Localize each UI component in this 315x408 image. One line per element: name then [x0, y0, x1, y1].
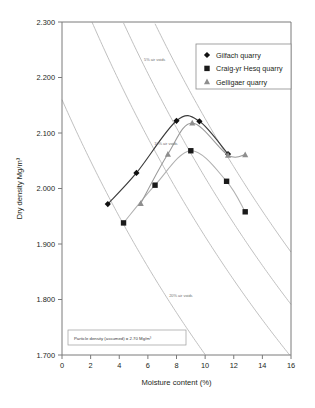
data-series-group [105, 116, 249, 226]
x-tick-label: 4 [117, 361, 121, 370]
legend-label-1: Gilfach quarry [216, 51, 261, 60]
air-void-label-5: 5% air voids [144, 57, 165, 62]
data-point [152, 182, 157, 187]
x-tick-label: 6 [146, 361, 150, 370]
y-tick-label: 1.700 [37, 351, 56, 360]
series-1 [105, 116, 231, 207]
x-tick-label: 2 [89, 361, 93, 370]
data-point [165, 151, 171, 157]
x-tick-label: 0 [60, 361, 64, 370]
x-tick-label: 12 [230, 361, 238, 370]
x-tick-label: 14 [258, 361, 266, 370]
air-void-line-20 [62, 100, 205, 355]
data-point [188, 148, 193, 153]
y-axis-title: Dry density Mg/m³ [15, 157, 24, 219]
legend-label-2: Craig-yr Hesq quarry [216, 64, 283, 73]
air-void-label-20: 20% air voids [169, 293, 192, 298]
x-axis-title: Moisture content (%) [141, 378, 212, 387]
data-point [243, 209, 248, 214]
y-tick-label: 2.000 [37, 184, 56, 193]
series-2 [121, 148, 248, 226]
note-text: Particle density (assumed) = 2.70 Mg/m³ [74, 336, 152, 341]
data-point [189, 120, 195, 126]
plot-canvas: 02468101214161.7001.8001.9002.0002.1002.… [0, 0, 315, 408]
y-tick-label: 1.900 [37, 240, 56, 249]
data-point [242, 151, 248, 157]
legend-marker-square-icon [204, 66, 209, 71]
y-tick-label: 2.100 [37, 129, 56, 138]
x-tick-label: 8 [174, 361, 178, 370]
air-void-label-10: 10% air voids [154, 141, 177, 146]
y-tick-label: 1.800 [37, 295, 56, 304]
chart-legend: Gilfach quarryCraig-yr Hesq quarryGellig… [196, 44, 291, 89]
particle-density-note: Particle density (assumed) = 2.70 Mg/m³ [68, 330, 186, 345]
y-tick-label: 2.200 [37, 73, 56, 82]
y-tick-label: 2.300 [37, 18, 56, 27]
dry-density-chart: 02468101214161.7001.8001.9002.0002.1002.… [0, 0, 315, 408]
series-line [108, 116, 228, 204]
legend-label-3: Gelligaer quarry [216, 78, 268, 87]
data-point [121, 220, 126, 225]
x-tick-label: 16 [287, 361, 295, 370]
series-line [141, 123, 245, 203]
x-tick-label: 10 [201, 361, 209, 370]
data-point [224, 179, 229, 184]
air-void-labels-group: 0% air voids5% air voids10% air voids20%… [129, 0, 193, 298]
data-point [138, 200, 144, 206]
